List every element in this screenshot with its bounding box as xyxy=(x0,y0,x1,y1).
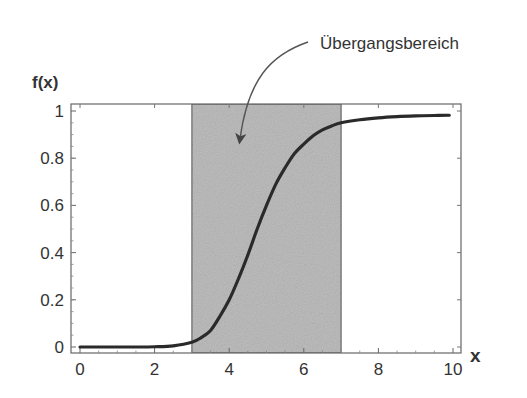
x-axis-label: x xyxy=(470,345,481,366)
y-tick-label: 0.6 xyxy=(40,196,64,215)
y-axis-label: f(x) xyxy=(32,73,58,92)
x-tick-label: 0 xyxy=(75,360,84,379)
x-tick-label: 4 xyxy=(224,360,233,379)
transition-region-shading xyxy=(192,104,341,353)
y-tick-label: 0 xyxy=(55,338,64,357)
x-tick-label: 2 xyxy=(150,360,159,379)
y-tick-label: 0.4 xyxy=(40,244,64,263)
x-tick-label: 8 xyxy=(374,360,383,379)
y-tick-label: 1 xyxy=(55,102,64,121)
x-tick-label: 6 xyxy=(299,360,308,379)
x-tick-label: 10 xyxy=(444,360,463,379)
sigmoid-chart: 0246810 00.20.40.60.81 f(x) x Übergangsb… xyxy=(0,0,527,398)
plot-area: 0246810 00.20.40.60.81 xyxy=(40,102,462,379)
y-tick-label: 0.2 xyxy=(40,291,64,310)
annotation-label: Übergangsbereich xyxy=(320,34,459,53)
y-tick-label: 0.8 xyxy=(40,149,64,168)
